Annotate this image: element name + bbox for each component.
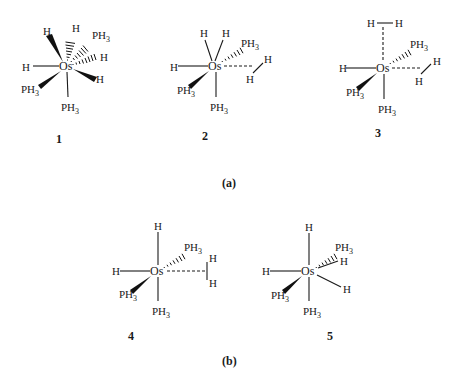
- hydride-atom: H: [305, 221, 313, 233]
- compound-label: 4: [128, 329, 134, 343]
- figure-canvas: Os H H PH3 H H H PH3 PH3 1 Os H H PH3 H …: [0, 0, 461, 373]
- hydride-atom: H: [200, 27, 208, 39]
- dihydrogen-atom: H: [264, 53, 272, 65]
- structure-4: Os H PH3 H H H PH3 PH3 4: [112, 220, 217, 343]
- wedge-bond: [38, 71, 61, 89]
- bond: [205, 40, 212, 61]
- panel-label-b: (b): [222, 354, 237, 368]
- h2-bond: [253, 63, 263, 73]
- dihydrogen-atom: H: [246, 73, 254, 85]
- phosphine-ligand: PH3: [92, 29, 110, 44]
- osmium-atom: Os: [59, 59, 73, 73]
- bond: [67, 72, 68, 97]
- phosphine-ligand: PH3: [152, 305, 170, 320]
- structure-1: Os H H PH3 H H H PH3 PH3 1: [21, 22, 110, 146]
- structures-diagram: Os H H PH3 H H H PH3 PH3 1 Os H H PH3 H …: [0, 0, 461, 373]
- phosphine-ligand: PH3: [21, 83, 39, 98]
- phosphine-ligand: PH3: [184, 241, 202, 256]
- hydride-atom: H: [96, 73, 104, 85]
- wedge-bond: [46, 34, 63, 62]
- dihydrogen-atom: H: [415, 75, 423, 87]
- phosphine-ligand: PH3: [378, 103, 396, 118]
- phosphine-ligand: PH3: [335, 241, 353, 256]
- dihydrogen-atom: H: [367, 17, 375, 29]
- bond: [318, 261, 338, 268]
- osmium-atom: Os: [301, 264, 315, 278]
- hash-bond: [222, 48, 243, 62]
- dihydrogen-atom: H: [395, 17, 403, 29]
- phosphine-ligand: PH3: [61, 101, 79, 116]
- hash-bond: [316, 254, 337, 268]
- osmium-atom: Os: [376, 61, 390, 75]
- hydride-atom: H: [170, 61, 178, 73]
- compound-label: 3: [375, 126, 381, 140]
- osmium-atom: Os: [208, 59, 222, 73]
- phosphine-ligand: PH3: [241, 37, 259, 52]
- structure-3: Os H H PH3 H H H PH3 PH3 3: [339, 17, 441, 140]
- hydride-atom: H: [43, 25, 51, 37]
- wedge-bond: [130, 276, 151, 294]
- panel-label-a: (a): [222, 176, 236, 190]
- compound-label: 5: [327, 329, 333, 343]
- structure-2: Os H H PH3 H H H PH3 PH3 2: [170, 27, 272, 143]
- dihydrogen-atom: H: [209, 252, 217, 264]
- bond: [317, 275, 341, 287]
- hydride-atom: H: [262, 265, 270, 277]
- h2-bond: [421, 64, 431, 74]
- hydride-atom: H: [339, 62, 347, 74]
- phosphine-ligand: PH3: [210, 101, 228, 116]
- dihydrogen-atom: H: [209, 277, 217, 289]
- wedge-bond: [188, 71, 209, 89]
- dihydrogen-atom: H: [433, 55, 441, 67]
- compound-label: 2: [202, 129, 208, 143]
- compound-label: 1: [56, 132, 62, 146]
- hash-bond: [66, 42, 76, 60]
- structure-5: Os H PH3 H H H PH3 PH3 5: [262, 221, 353, 343]
- phosphine-ligand: PH3: [303, 305, 321, 320]
- hydride-atom: H: [112, 265, 120, 277]
- hydride-atom: H: [222, 27, 230, 39]
- hash-bond: [73, 54, 96, 65]
- hash-bond: [164, 254, 185, 268]
- hydride-atom: H: [343, 283, 351, 295]
- hash-bond: [390, 50, 411, 64]
- bond: [215, 40, 223, 61]
- hydride-atom: H: [154, 220, 162, 232]
- hydride-atom: H: [72, 22, 80, 34]
- hydride-atom: H: [340, 255, 348, 267]
- hydride-atom: H: [100, 51, 108, 63]
- phosphine-ligand: PH3: [410, 38, 428, 53]
- osmium-atom: Os: [150, 264, 164, 278]
- wedge-bond: [73, 69, 97, 82]
- hydride-atom: H: [22, 61, 30, 73]
